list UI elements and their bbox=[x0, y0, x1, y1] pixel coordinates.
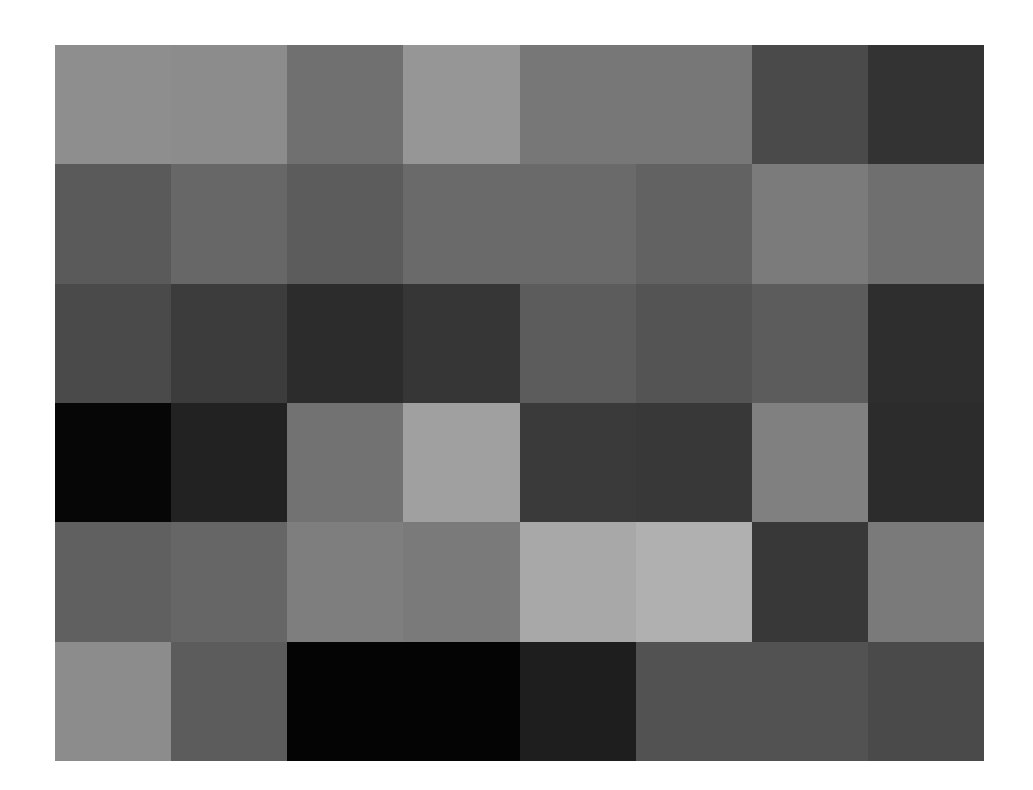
grid-cell-r4-c2 bbox=[287, 522, 403, 641]
grid-cell-r1-c4 bbox=[520, 164, 636, 283]
grayscale-tile-grid bbox=[55, 45, 984, 761]
grid-cell-r2-c1 bbox=[171, 284, 287, 403]
grid-cell-r2-c7 bbox=[868, 284, 984, 403]
grid-cell-r5-c0 bbox=[55, 642, 171, 761]
grid-cell-r1-c1 bbox=[171, 164, 287, 283]
grid-cell-r1-c5 bbox=[636, 164, 752, 283]
grid-cell-r3-c2 bbox=[287, 403, 403, 522]
grid-cell-r3-c1 bbox=[171, 403, 287, 522]
grid-cell-r4-c0 bbox=[55, 522, 171, 641]
grid-cell-r0-c1 bbox=[171, 45, 287, 164]
grid-cell-r2-c4 bbox=[520, 284, 636, 403]
grid-cell-r3-c6 bbox=[752, 403, 868, 522]
grid-cell-r0-c4 bbox=[520, 45, 636, 164]
grid-cell-r3-c4 bbox=[520, 403, 636, 522]
grid-cell-r2-c6 bbox=[752, 284, 868, 403]
grid-cell-r4-c1 bbox=[171, 522, 287, 641]
grid-cell-r1-c6 bbox=[752, 164, 868, 283]
grid-cell-r4-c5 bbox=[636, 522, 752, 641]
grid-cell-r4-c4 bbox=[520, 522, 636, 641]
grid-cell-r3-c0 bbox=[55, 403, 171, 522]
grid-cell-r4-c6 bbox=[752, 522, 868, 641]
grid-cell-r5-c3 bbox=[403, 642, 519, 761]
grid-cell-r3-c3 bbox=[403, 403, 519, 522]
grid-cell-r1-c3 bbox=[403, 164, 519, 283]
grid-cell-r2-c5 bbox=[636, 284, 752, 403]
grid-cell-r5-c4 bbox=[520, 642, 636, 761]
grid-cell-r1-c7 bbox=[868, 164, 984, 283]
grid-cell-r0-c3 bbox=[403, 45, 519, 164]
grid-cell-r0-c0 bbox=[55, 45, 171, 164]
grid-cell-r1-c0 bbox=[55, 164, 171, 283]
grid-cell-r0-c6 bbox=[752, 45, 868, 164]
grid-cell-r0-c5 bbox=[636, 45, 752, 164]
grid-cell-r4-c7 bbox=[868, 522, 984, 641]
grid-cell-r5-c2 bbox=[287, 642, 403, 761]
grid-cell-r3-c7 bbox=[868, 403, 984, 522]
grid-cell-r2-c2 bbox=[287, 284, 403, 403]
grid-cell-r0-c2 bbox=[287, 45, 403, 164]
grid-cell-r2-c0 bbox=[55, 284, 171, 403]
grid-cell-r3-c5 bbox=[636, 403, 752, 522]
grid-cell-r5-c5 bbox=[636, 642, 752, 761]
grid-cell-r5-c1 bbox=[171, 642, 287, 761]
grid-cell-r4-c3 bbox=[403, 522, 519, 641]
grid-cell-r2-c3 bbox=[403, 284, 519, 403]
grid-cell-r5-c6 bbox=[752, 642, 868, 761]
grid-cell-r0-c7 bbox=[868, 45, 984, 164]
grid-cell-r5-c7 bbox=[868, 642, 984, 761]
grid-cell-r1-c2 bbox=[287, 164, 403, 283]
